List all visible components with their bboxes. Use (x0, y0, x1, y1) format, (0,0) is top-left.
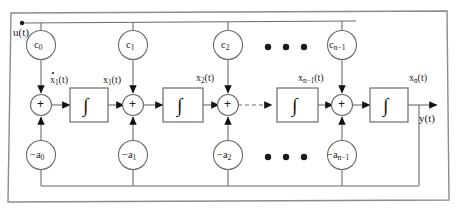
ellipsis-bottom-dots (265, 154, 307, 160)
gain-label-minus-a2: −a2 (217, 150, 231, 162)
gain-label-minus-a1: −a1 (122, 150, 136, 162)
integrator-box-2 (163, 88, 203, 122)
gain-label-c1: c1 (126, 40, 134, 52)
feedback-gain-circles (27, 141, 357, 170)
signal-label-xn-1: xn−1(t) (298, 73, 324, 85)
integrator-symbol-n-1: ∫ (292, 95, 297, 115)
signal-label-x2: x2(t) (196, 73, 214, 85)
input-bus (20, 21, 356, 25)
integrator-box-n (370, 88, 408, 122)
summer-plus-2: + (129, 98, 136, 110)
gain-label-c0: c0 (34, 40, 42, 52)
gain-label-cn-1: cn−1 (329, 40, 345, 52)
integrator-box-n-1 (277, 88, 318, 122)
integrator-symbol-2: ∫ (177, 95, 182, 115)
ellipsis-top-dots (265, 44, 307, 50)
signal-label-x1: x1(t) (103, 75, 121, 87)
feedforward-gain-circles (27, 31, 357, 60)
input-label-u: u(t) (13, 27, 29, 38)
summer-plus-3: + (224, 98, 231, 110)
gain-label-c2: c2 (221, 40, 229, 52)
output-label-y: y(t) (419, 113, 435, 124)
gain-label-minus-an-1: −an−1 (327, 150, 349, 162)
state-variable-block-diagram: u(t) y(t) c0 c1 c2 cn−1 −a0 −a1 −a2 −an−… (0, 0, 459, 218)
signal-label-xn: xn(t) (409, 73, 427, 85)
integrator-symbol-1: ∫ (83, 95, 88, 115)
signal-label-xdot1: x1(t) (50, 75, 68, 87)
summer-plus-n: + (338, 98, 345, 110)
gain-label-minus-a0: −a0 (30, 150, 44, 162)
integrator-box-1 (70, 88, 108, 122)
summer-plus-1: + (37, 98, 44, 110)
input-junction-dot (20, 21, 24, 25)
integrator-symbol-n: ∫ (383, 95, 388, 115)
